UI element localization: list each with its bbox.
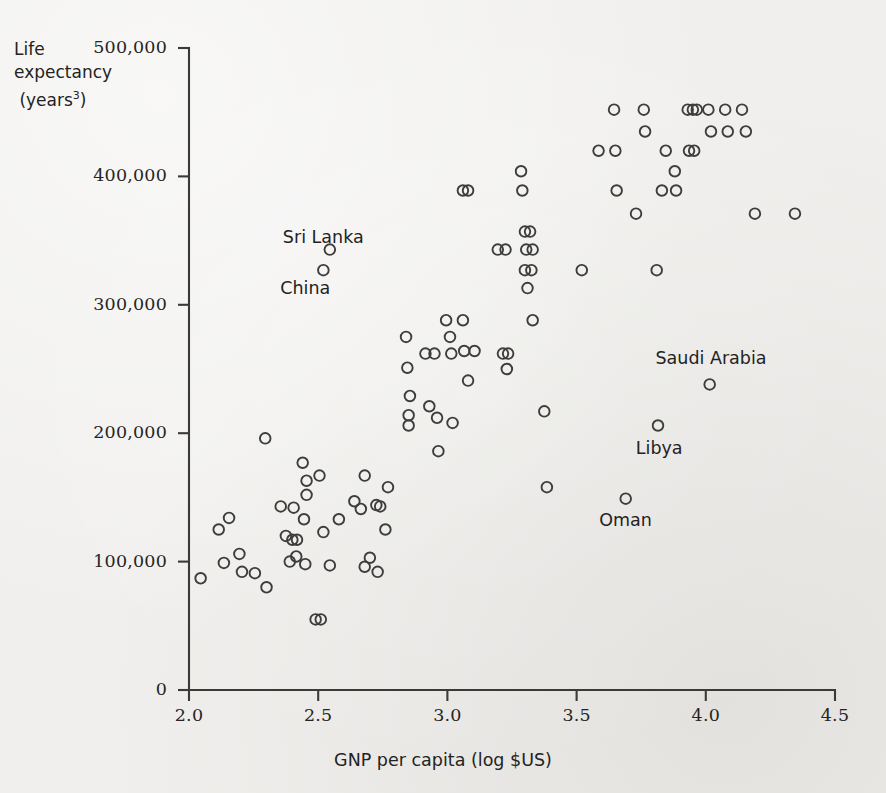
data-point [458, 315, 469, 326]
data-point [611, 185, 622, 196]
data-point [631, 208, 642, 219]
data-point [314, 470, 325, 481]
x-axis-tick-label: 4.5 [800, 705, 870, 725]
data-point [301, 475, 312, 486]
x-axis-tick-label: 2.5 [283, 705, 353, 725]
data-point [359, 470, 370, 481]
data-point [401, 332, 412, 343]
y-axis-tick-label: 500,000 [57, 37, 167, 57]
plot-canvas [0, 0, 886, 793]
data-point [660, 145, 671, 156]
data-point [638, 104, 649, 115]
data-point [383, 482, 394, 493]
data-point [459, 346, 470, 357]
data-point [657, 185, 668, 196]
data-point [261, 582, 272, 593]
data-point [463, 375, 474, 386]
data-point [300, 559, 311, 570]
data-point [502, 364, 513, 375]
data-point [195, 573, 206, 584]
data-point [651, 265, 662, 276]
data-point [671, 185, 682, 196]
data-point [433, 446, 444, 457]
data-point [522, 283, 533, 294]
data-point [441, 315, 452, 326]
data-point [737, 104, 748, 115]
data-point [260, 433, 271, 444]
point-annotation-sri-lanka: Sri Lanka [283, 227, 364, 247]
data-point [432, 412, 443, 423]
data-point [424, 401, 435, 412]
data-point [299, 514, 310, 525]
data-point [704, 379, 715, 390]
x-axis-tick-label: 2.0 [154, 705, 224, 725]
data-point [593, 145, 604, 156]
data-point [741, 126, 752, 137]
point-annotation-saudi-arabia: Saudi Arabia [655, 348, 766, 368]
data-point [516, 166, 527, 177]
x-axis-tick-label: 4.0 [671, 705, 741, 725]
data-point [234, 549, 245, 560]
data-point [446, 348, 457, 359]
data-point [224, 513, 235, 524]
x-axis-tick-label: 3.0 [412, 705, 482, 725]
data-point [275, 501, 286, 512]
data-point [445, 332, 456, 343]
data-point [576, 265, 587, 276]
data-point [334, 514, 345, 525]
data-point [706, 126, 717, 137]
point-annotation-china: China [280, 278, 330, 298]
data-point [640, 126, 651, 137]
data-point [527, 244, 538, 255]
data-point [609, 104, 620, 115]
y-axis-title-superscript: 3 [73, 89, 80, 102]
data-point [620, 493, 631, 504]
data-point [219, 558, 230, 569]
y-axis-tick-label: 300,000 [57, 294, 167, 314]
data-point [365, 552, 376, 563]
point-annotation-oman: Oman [599, 510, 652, 530]
data-point [500, 244, 511, 255]
data-point [750, 208, 761, 219]
data-point [213, 524, 224, 535]
data-point [356, 504, 367, 515]
data-point [469, 346, 480, 357]
data-point [653, 420, 664, 431]
data-point [703, 104, 714, 115]
data-point [722, 126, 733, 137]
data-point [610, 145, 621, 156]
point-annotation-libya: Libya [636, 438, 683, 458]
data-point [790, 208, 801, 219]
data-point [237, 567, 248, 578]
data-point [301, 490, 312, 501]
y-axis-tick-label: 400,000 [57, 165, 167, 185]
data-point [517, 185, 528, 196]
data-point [288, 502, 299, 513]
data-point [405, 391, 416, 402]
y-axis-tick-label: 200,000 [57, 422, 167, 442]
data-point [669, 166, 680, 177]
data-point [403, 410, 414, 421]
data-point [539, 406, 550, 417]
data-point [527, 315, 538, 326]
data-point [402, 362, 413, 373]
data-point [542, 482, 553, 493]
scatter-plot-figure: Lifeexpectancy (years3) GNP per capita (… [0, 0, 886, 793]
data-point [297, 457, 308, 468]
data-point [380, 524, 391, 535]
x-axis-tick-label: 3.5 [542, 705, 612, 725]
data-point [250, 568, 261, 579]
data-point [526, 265, 537, 276]
y-axis-tick-label: 0 [57, 679, 167, 699]
data-point [318, 265, 329, 276]
x-axis-title: GNP per capita (log $US) [0, 750, 886, 770]
data-point [318, 527, 329, 538]
data-point [325, 560, 336, 571]
y-axis-tick-label: 100,000 [57, 551, 167, 571]
data-point [403, 420, 414, 431]
data-point [372, 567, 383, 578]
data-point [720, 104, 731, 115]
data-point [447, 418, 458, 429]
